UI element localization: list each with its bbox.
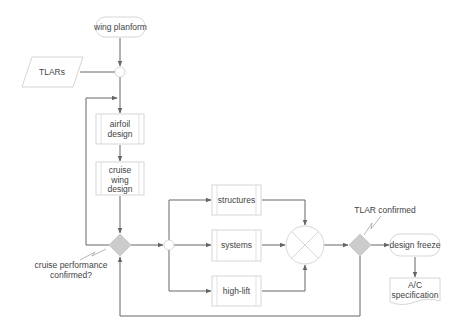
tlars-node[interactable]: TLARs bbox=[22, 57, 83, 87]
ac-specification-label-1: A/C bbox=[408, 280, 422, 290]
merge-junction bbox=[115, 67, 125, 77]
airfoil-design-label-1: airfoil bbox=[110, 119, 130, 129]
tlars-label: TLARs bbox=[39, 67, 65, 77]
wing-planform-label: wing planform bbox=[93, 22, 147, 32]
cruise-wing-design-label-3: design bbox=[107, 184, 132, 194]
summing-junction bbox=[286, 226, 324, 264]
high-lift-label: high-lift bbox=[223, 286, 251, 296]
cruise-wing-design-label-2: wing bbox=[110, 175, 129, 185]
design-freeze-label: design freeze bbox=[389, 240, 440, 250]
cruise-decision-diamond[interactable] bbox=[109, 234, 131, 256]
tlar-check-annotation: TLAR confirmed bbox=[354, 205, 416, 235]
tlar-check-label: TLAR confirmed bbox=[354, 205, 416, 215]
structures-label: structures bbox=[218, 195, 255, 205]
airfoil-design-label-2: design bbox=[107, 129, 132, 139]
cruise-check-annotation: cruise performance confirmed? bbox=[35, 249, 108, 280]
cruise-check-label-2: confirmed? bbox=[50, 270, 92, 280]
split-junction bbox=[164, 240, 174, 250]
cruise-wing-design-node[interactable]: cruise wing design bbox=[96, 162, 144, 195]
tlar-decision-diamond[interactable] bbox=[349, 234, 371, 256]
flowchart: wing planform TLARs airfoil design cruis… bbox=[0, 0, 458, 333]
cruise-wing-design-label-1: cruise bbox=[109, 165, 132, 175]
ac-specification-node[interactable]: A/C specification bbox=[390, 278, 440, 305]
airfoil-design-node[interactable]: airfoil design bbox=[96, 114, 144, 144]
high-lift-node[interactable]: high-lift bbox=[212, 276, 261, 306]
systems-node[interactable]: systems bbox=[212, 230, 261, 261]
wing-planform-node[interactable]: wing planform bbox=[93, 17, 147, 37]
systems-label: systems bbox=[221, 240, 252, 250]
ac-specification-label-2: specification bbox=[392, 290, 439, 300]
design-freeze-node[interactable]: design freeze bbox=[389, 234, 440, 256]
cruise-check-label-1: cruise performance bbox=[35, 260, 108, 270]
structures-node[interactable]: structures bbox=[212, 185, 261, 215]
